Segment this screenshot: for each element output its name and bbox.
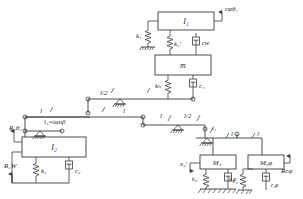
cw-damper-icon	[193, 33, 200, 49]
len-l2-top-label: l/2	[100, 89, 108, 97]
c1-damper-icon	[190, 75, 197, 91]
ground-M2phi-group	[236, 190, 252, 194]
i2-label: i₂=tanβ	[44, 118, 66, 126]
input-R2theta-group: R₂θ̇₂	[8, 124, 22, 142]
fulcrum-lower-right-icon	[200, 138, 214, 146]
tick-l2-b	[197, 115, 200, 121]
lever-left-group: i₂=tanβ	[23, 117, 90, 139]
ground-M2x-group	[198, 189, 236, 193]
damper-c2phi-group: c₂φ	[263, 169, 279, 190]
block-M2x-group: M₂ₓ x₂′	[179, 155, 236, 171]
spring-k1p-group: k₁′	[167, 30, 182, 55]
fulcrum-upper-icon	[113, 99, 127, 107]
ctheta1-label: cφθ₁	[225, 5, 238, 13]
lever-right-group: l l/2	[141, 112, 207, 133]
tick-l-mid	[102, 107, 105, 112]
tick-l-d	[252, 133, 255, 138]
len-l-c-label: l	[231, 130, 233, 138]
damper-c1-group: c₁	[190, 75, 205, 99]
cw-label: cᴡ	[202, 39, 210, 47]
fulcrum-i2-icon	[33, 131, 47, 139]
k2x-label: k₂ₓ	[192, 176, 198, 182]
c2phi-label: c₂φ	[271, 182, 278, 188]
block-I2-group: I₂	[22, 137, 86, 157]
damper-c2-group: c₂	[66, 157, 82, 183]
len-l2-b-label: l/2	[184, 112, 192, 120]
damper-cw-group: cᴡ	[193, 33, 211, 55]
c1-label: c₁	[199, 82, 205, 90]
R2theta-label: R₂θ̇₂	[8, 124, 22, 132]
input-R2W-group: R₂W	[3, 152, 22, 183]
k1p-spring-icon	[167, 34, 173, 51]
block-M2phi-label: M₂φ	[259, 159, 272, 167]
k1-label: k₁	[136, 32, 142, 40]
k1-lead-line	[148, 21, 158, 28]
tick-l-a	[50, 107, 53, 112]
block-m-group: m	[155, 55, 211, 75]
spring-k2x-group: k₂ₓ	[192, 169, 209, 189]
tick-l-upper	[147, 88, 150, 93]
c2-damper-icon	[66, 157, 73, 173]
lever-lower-right-group: i₁ l l	[196, 124, 262, 155]
k2phi-spring-icon	[240, 172, 246, 189]
k2phi-label: k₂φ	[229, 176, 236, 182]
k1-ground-icon	[140, 47, 156, 50]
spring-kh-group: kₕ	[155, 75, 171, 99]
block-M2x-label: M₂ₓ	[212, 159, 223, 167]
output-ctheta1-group: cφθ₁	[214, 5, 238, 21]
len-l-d-label: l	[257, 130, 259, 138]
tick-l-c	[226, 133, 229, 138]
spring-k2-group: k₂	[33, 157, 47, 183]
k2x-spring-icon	[203, 172, 209, 189]
i1-label: i₁	[212, 124, 216, 132]
len-l-mid-label: l	[123, 107, 125, 115]
ground-M2x-hatch	[198, 189, 236, 193]
R2W-label: R₂W	[3, 162, 18, 170]
c2-label: c₂	[75, 167, 81, 175]
block-I1-group: I₁	[158, 12, 214, 30]
spring-k2phi-group: k₂φ	[229, 169, 253, 189]
lever-upper-group: l/2	[86, 88, 195, 107]
fulcrum-right-icon	[171, 125, 185, 133]
block-I2-label: I₂	[50, 143, 57, 152]
diagram-canvas: I₁ cφθ₁ k₁ k₁′ cᴡ	[0, 0, 303, 199]
block-m-label: m	[180, 61, 186, 70]
block-I1-label: I₁	[182, 17, 189, 26]
tick-l2-top	[111, 88, 114, 93]
spring-k1-group: k₁	[136, 21, 158, 50]
ground-M2phi-hatch	[236, 190, 252, 194]
k2-label: k₂	[41, 167, 47, 175]
rcphi-label: Rcφ	[280, 167, 292, 175]
len-l-b-label: l	[160, 112, 162, 120]
c2phi-damper-icon	[263, 169, 270, 185]
k1p-label: k₁′	[174, 40, 182, 48]
kh-label: kₕ	[155, 82, 161, 90]
k2-spring-icon	[33, 161, 39, 178]
kh-spring-icon	[165, 78, 171, 95]
k1-spring-icon	[145, 28, 151, 45]
block-M2phi-group: M₂φ Rcφ	[248, 155, 292, 175]
len-l-a-label: l	[40, 107, 42, 115]
x2p-label: x₂′	[179, 160, 188, 168]
tick-l-b	[168, 115, 171, 121]
mechanical-system-diagram: I₁ cφθ₁ k₁ k₁′ cᴡ	[0, 0, 303, 199]
